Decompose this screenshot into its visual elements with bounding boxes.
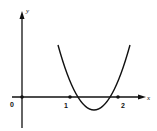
tick-label-2: 2 bbox=[121, 102, 125, 109]
parabola-curve bbox=[58, 45, 130, 110]
tick-label-1: 1 bbox=[64, 102, 68, 109]
origin-label: 0 bbox=[10, 101, 14, 108]
root-point-1 bbox=[68, 95, 72, 99]
x-axis-label: x bbox=[146, 94, 151, 102]
y-axis-arrow-icon bbox=[20, 11, 25, 19]
x-axis-arrow-icon bbox=[138, 95, 146, 100]
origin-point bbox=[20, 95, 24, 99]
root-point-2 bbox=[116, 95, 120, 99]
y-axis-label: y bbox=[25, 7, 30, 15]
function-graph: y x 0 1 2 bbox=[0, 0, 157, 131]
